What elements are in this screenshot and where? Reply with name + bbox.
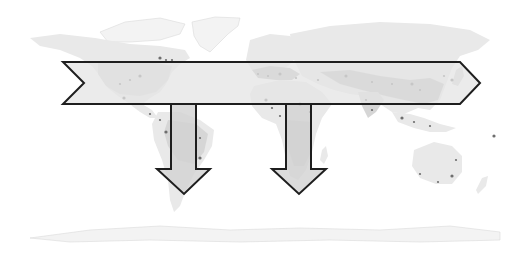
population-dot xyxy=(400,116,403,119)
population-dot xyxy=(429,125,431,127)
population-dot xyxy=(158,56,161,59)
australia xyxy=(412,142,462,184)
population-dot xyxy=(165,59,167,61)
population-dot xyxy=(164,130,167,133)
population-dot xyxy=(279,115,281,117)
population-dot xyxy=(437,181,439,183)
population-dot xyxy=(159,119,161,121)
population-dot xyxy=(171,59,173,61)
southeast-asia xyxy=(392,112,456,132)
population-dot xyxy=(450,174,453,177)
greenland xyxy=(192,17,240,52)
population-dot xyxy=(413,121,415,123)
population-dot xyxy=(198,156,201,159)
population-dot xyxy=(271,107,273,109)
population-dot xyxy=(371,109,373,111)
antarctica xyxy=(30,226,500,242)
population-dot xyxy=(455,159,457,161)
population-dot xyxy=(419,173,421,175)
new-zealand xyxy=(476,176,488,194)
arctic-islands xyxy=(100,18,185,42)
world-map-svg xyxy=(0,0,524,257)
population-dot xyxy=(149,113,151,115)
madagascar xyxy=(320,146,328,164)
population-dot xyxy=(199,137,201,139)
population-dot xyxy=(492,134,495,137)
world-map-figure xyxy=(0,0,524,257)
east-west-arrow xyxy=(63,62,480,104)
